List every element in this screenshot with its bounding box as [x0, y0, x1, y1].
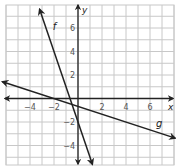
x-axis-label: x	[167, 102, 174, 112]
y-tick-label: −4	[63, 142, 75, 151]
x-tick-label: −4	[24, 103, 36, 112]
y-tick-label: 4	[70, 48, 75, 57]
line-label-f: f	[53, 21, 58, 32]
x-tick-label: −2	[48, 103, 60, 112]
grid-lines	[6, 5, 174, 165]
x-tick-label: 6	[147, 103, 152, 112]
y-axis-label: y	[81, 5, 88, 15]
x-tick-label: 4	[123, 103, 128, 112]
y-tick-label: 6	[70, 24, 75, 33]
line-label-g: g	[156, 118, 162, 129]
y-tick-label: −2	[63, 118, 75, 127]
y-tick-label: 2	[70, 71, 75, 80]
x-tick-label: 2	[99, 103, 104, 112]
coordinate-graph: xy fg −4−2246642−2−4	[0, 0, 176, 167]
